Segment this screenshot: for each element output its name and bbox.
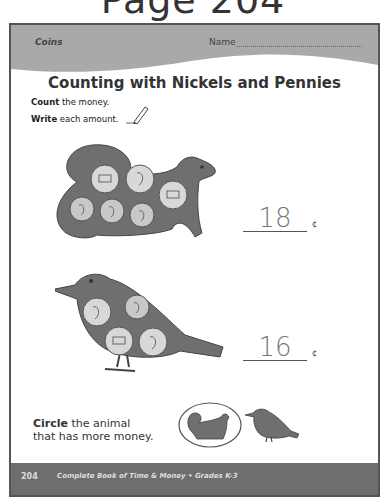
option-bird[interactable] — [245, 407, 299, 443]
pencil-icon — [126, 103, 150, 125]
instruction-count: Count the money. — [31, 97, 109, 107]
subject-label: Coins — [35, 37, 63, 47]
footer-bar: 204 Complete Book of Time & Money • Grad… — [11, 463, 378, 495]
worksheet: Coins Name Counting with Nickels and Pen… — [9, 23, 380, 497]
answer-squirrel[interactable]: 18 — [243, 205, 307, 232]
cent-sign: ¢ — [312, 220, 317, 229]
instruction-write: Write each amount. — [31, 114, 119, 124]
bird-with-coins — [55, 267, 225, 377]
name-field[interactable] — [237, 46, 362, 47]
book-title: Complete Book of Time & Money • Grades K… — [57, 472, 238, 480]
worksheet-title: Counting with Nickels and Pennies — [11, 74, 378, 92]
squirrel-with-coins — [47, 137, 219, 247]
page-heading: Page 204 — [0, 0, 386, 22]
cent-sign: ¢ — [312, 349, 317, 358]
name-label: Name — [209, 37, 236, 47]
coin-penny — [125, 295, 149, 319]
circle-instruction: Circle the animal that has more money. — [33, 417, 153, 443]
option-squirrel-circled[interactable] — [177, 401, 243, 449]
answer-bird[interactable]: 16 — [243, 334, 307, 361]
page-number: 204 — [21, 472, 38, 481]
